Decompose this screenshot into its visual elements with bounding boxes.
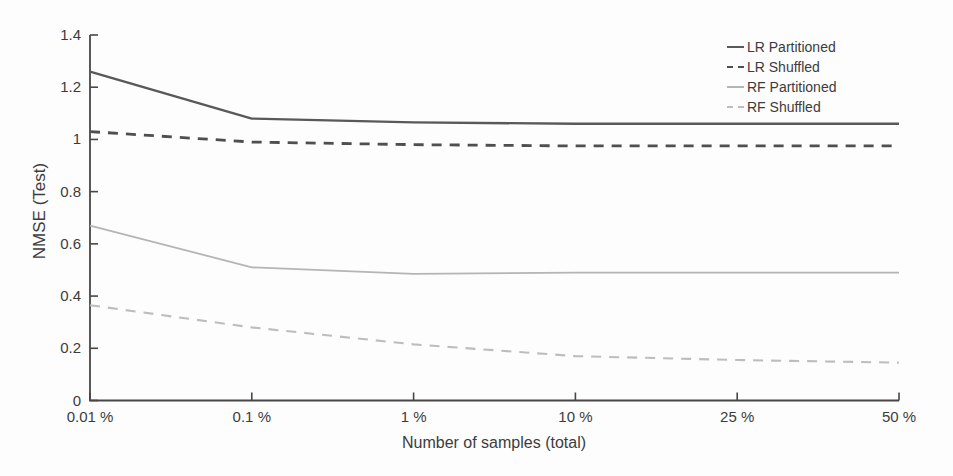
legend: LR Partitioned LR Shuffled RF Partitione… bbox=[727, 37, 836, 117]
legend-label: LR Shuffled bbox=[747, 59, 820, 75]
y-tick-label: 0.2 bbox=[60, 339, 81, 356]
x-tick-label: 25 % bbox=[720, 408, 754, 425]
x-tick-label: 0.01 % bbox=[67, 408, 114, 425]
line-chart-figure: 00.20.40.60.811.21.40.01 %0.1 %1 %10 %25… bbox=[0, 0, 953, 476]
y-tick-label: 0.6 bbox=[60, 235, 81, 252]
y-tick-label: 0 bbox=[73, 392, 81, 409]
series-line-rf-shuffled bbox=[90, 305, 899, 362]
legend-item-lr-shuffled: LR Shuffled bbox=[727, 57, 836, 77]
legend-item-lr-partitioned: LR Partitioned bbox=[727, 37, 836, 57]
legend-swatch-rf-shuffled bbox=[727, 106, 744, 108]
y-tick-label: 0.8 bbox=[60, 183, 81, 200]
legend-label: LR Partitioned bbox=[747, 39, 836, 55]
legend-label: RF Shuffled bbox=[747, 99, 821, 115]
y-tick-label: 1 bbox=[73, 130, 81, 147]
legend-label: RF Partitioned bbox=[747, 79, 836, 95]
x-tick-label: 1 % bbox=[401, 408, 427, 425]
y-tick-label: 1.2 bbox=[60, 78, 81, 95]
x-tick-label: 10 % bbox=[558, 408, 592, 425]
legend-swatch-lr-partitioned bbox=[727, 46, 744, 48]
legend-item-rf-partitioned: RF Partitioned bbox=[727, 77, 836, 97]
x-tick-label: 50 % bbox=[882, 408, 916, 425]
series-line-lr-shuffled bbox=[90, 132, 899, 146]
y-tick-label: 0.4 bbox=[60, 287, 81, 304]
x-axis-label: Number of samples (total) bbox=[402, 434, 586, 452]
legend-swatch-lr-shuffled bbox=[727, 66, 744, 68]
y-axis-label: NMSE (Test) bbox=[30, 163, 50, 259]
legend-item-rf-shuffled: RF Shuffled bbox=[727, 97, 836, 117]
y-tick-label: 1.4 bbox=[60, 26, 81, 43]
legend-swatch-rf-partitioned bbox=[727, 86, 744, 88]
x-tick-label: 0.1 % bbox=[233, 408, 271, 425]
series-line-rf-partitioned bbox=[90, 226, 899, 274]
